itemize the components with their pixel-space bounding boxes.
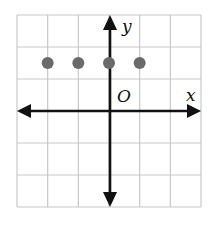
axes <box>17 15 201 207</box>
y-axis-label: y <box>121 16 132 36</box>
x-axis-label: x <box>186 85 196 105</box>
coordinate-plane: y O x <box>0 0 209 230</box>
y-axis-down-arrow <box>103 192 117 207</box>
x-axis-right-arrow <box>187 104 201 118</box>
y-axis-up-arrow <box>103 15 117 30</box>
plotted-points <box>42 57 146 69</box>
plotted-point <box>42 57 54 69</box>
plotted-point <box>103 57 115 69</box>
x-axis-left-arrow <box>17 104 31 118</box>
plotted-point <box>134 57 146 69</box>
origin-label: O <box>117 86 131 106</box>
plotted-point <box>72 57 84 69</box>
